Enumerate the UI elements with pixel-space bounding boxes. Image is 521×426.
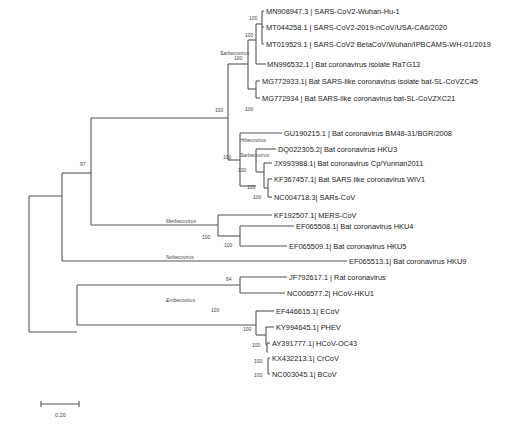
bootstrap-value: 100 [252, 342, 261, 348]
bootstrap-value: 100 [224, 242, 233, 248]
clade-label-embecovirus: Embecovirus [166, 297, 195, 303]
leaf-label: MG772934 | Bat SARS-like coronavirus bat… [262, 94, 455, 103]
leaf-label: GU190215.1 | Bat coronavirus BM48-31/BGR… [284, 129, 452, 138]
leaf-label: NC004718.3| SARs-CoV [274, 193, 355, 202]
leaf-label: EF065513.1| Bat coronavirus HKU9 [349, 257, 466, 266]
leaf-label: MG772933.1| Bat SARS-like coronavirus is… [262, 77, 478, 86]
leaf-label: JX993988.1| Bat coronavirus Cp/Yunnan201… [274, 159, 423, 168]
bootstrap-value: 100 [254, 372, 263, 378]
bootstrap-value: 100 [211, 307, 220, 313]
bootstrap-value: 64 [226, 276, 232, 282]
leaf-label: MN908947.3 | SARS-CoV2-Wuhan-Hu-1 [266, 7, 400, 16]
bootstrap-value: 100 [254, 358, 263, 364]
leaf-label: EF065508.1| Bat coronavirus HKU4 [296, 222, 413, 231]
bootstrap-value: 100 [253, 194, 262, 200]
leaf-label: KY994645.1| PHEV [276, 323, 341, 332]
bootstrap-value: 97 [80, 161, 86, 167]
clade-label-hibecovirus: Hibecovirus [240, 137, 267, 143]
scale-bar-label: 0.20 [55, 412, 66, 418]
clade-label-nobecovirus: Nobecovirus [166, 254, 194, 260]
leaf-label: KF367457.1| Bat SARS like coronavirus WI… [274, 175, 425, 184]
leaf-label: NC006577.2| HCoV-HKU1 [287, 289, 374, 298]
bootstrap-value: 100 [238, 167, 247, 173]
clade-label-sarbecovirus: Sarbecovirus [220, 50, 250, 56]
leaf-label: MT019529.1 | SARS-CoV2 BetaCoV/Wuhan/IPB… [266, 40, 491, 49]
bootstrap-value: 100 [243, 326, 252, 332]
leaf-label: DQ022305.2| Bat coronavirus HKU3 [278, 145, 397, 154]
bootstrap-value: 100 [247, 184, 256, 190]
bootstrap-value: 100 [245, 32, 254, 38]
leaf-label: MN996532.1 | Bat coronavirus isolate RaT… [267, 60, 420, 69]
leaf-label: MT044258.1 | SARS-CoV2-2019-nCoV/USA-CA6… [266, 23, 447, 32]
bootstrap-value: 100 [223, 154, 232, 160]
bootstrap-value: 100 [249, 15, 258, 21]
leaf-label: JF792617.1 | Rat coronavirus [289, 273, 386, 282]
clade-label-sarbecovirus: Sarbecovirus [240, 152, 270, 158]
leaf-label: EF446615.1| ECoV [276, 307, 340, 316]
leaf-label: NC003045.1| BCoV [272, 370, 337, 379]
bootstrap-value: 100 [202, 234, 211, 240]
bootstrap-value: 100 [245, 106, 254, 112]
clade-label-merbecovirus: Merbecovirus [166, 218, 197, 224]
leaf-label: EF065509.1| Bat coronavirus HKU5 [289, 242, 406, 251]
leaf-label: KX432213.1| CrCoV [272, 354, 339, 363]
leaf-label: AY391777.1| HCoV-OC43 [272, 339, 357, 348]
bootstrap-value: 100 [215, 107, 224, 113]
phylogenetic-tree-full: MN908947.3 | SARS-CoV2-Wuhan-Hu-1 MT0442… [0, 0, 521, 426]
leaf-label: KF192507.1| MERS-CoV [274, 211, 357, 220]
